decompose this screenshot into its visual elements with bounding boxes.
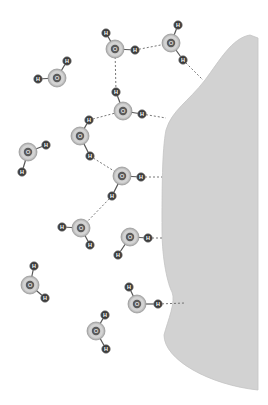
hydrogen-atom: H	[131, 46, 140, 55]
svg-text:H: H	[140, 111, 144, 117]
svg-text:H: H	[176, 22, 180, 28]
svg-text:O: O	[55, 75, 60, 81]
svg-text:H: H	[88, 242, 92, 248]
hydrogen-atom: H	[101, 311, 110, 320]
svg-text:O: O	[135, 301, 140, 307]
hydrogen-atom: H	[114, 251, 123, 260]
svg-text:H: H	[44, 142, 48, 148]
svg-text:H: H	[36, 76, 40, 82]
hydrogen-atom: H	[41, 294, 50, 303]
hydrogen-atom: H	[102, 345, 111, 354]
water-molecule: OHH	[102, 29, 140, 58]
hydrogen-atom: H	[108, 192, 117, 201]
svg-text:H: H	[110, 193, 114, 199]
svg-text:H: H	[114, 89, 118, 95]
oxygen-atom: O	[162, 34, 180, 52]
water-molecule: OHH	[108, 167, 146, 200]
svg-text:O: O	[78, 133, 83, 139]
svg-text:O: O	[94, 328, 99, 334]
oxygen-atom: O	[72, 219, 90, 237]
water-molecule: OHH	[58, 219, 95, 249]
hydrogen-atom: H	[125, 283, 134, 292]
svg-text:H: H	[60, 224, 64, 230]
surface-shape	[162, 35, 258, 390]
svg-text:O: O	[113, 46, 118, 52]
svg-text:H: H	[87, 117, 91, 123]
svg-text:H: H	[88, 153, 92, 159]
svg-text:H: H	[146, 235, 150, 241]
water-molecule: OHH	[34, 57, 72, 87]
svg-text:O: O	[128, 234, 133, 240]
oxygen-atom: O	[114, 102, 132, 120]
svg-text:H: H	[139, 174, 143, 180]
svg-text:H: H	[116, 252, 120, 258]
hydrogen-atom: H	[85, 116, 94, 125]
hydrogen-atom: H	[179, 56, 188, 65]
svg-text:O: O	[26, 149, 31, 155]
water-surface-diagram: OHHOHHOHHOHHOHHOHHOHHOHHOHHOHHOHHOHH	[0, 0, 268, 405]
svg-text:H: H	[103, 312, 107, 318]
hydrogen-atom: H	[34, 75, 43, 84]
svg-text:O: O	[79, 225, 84, 231]
svg-text:H: H	[32, 263, 36, 269]
svg-text:O: O	[169, 40, 174, 46]
oxygen-atom: O	[87, 322, 105, 340]
oxygen-atom: O	[121, 228, 139, 246]
hydrogen-atom: H	[30, 262, 39, 271]
oxygen-atom: O	[113, 167, 131, 185]
svg-text:H: H	[104, 346, 108, 352]
water-molecule: OHH	[114, 228, 153, 259]
svg-text:H: H	[43, 295, 47, 301]
oxygen-atom: O	[21, 276, 39, 294]
hydrogen-atom: H	[86, 241, 95, 250]
svg-text:H: H	[133, 47, 137, 53]
hydrogen-atom: H	[154, 300, 163, 309]
hydrogen-atom: H	[18, 168, 27, 177]
water-molecule: OHH	[71, 116, 94, 161]
svg-text:H: H	[181, 57, 185, 63]
oxygen-atom: O	[48, 69, 66, 87]
water-molecule: OHH	[21, 262, 49, 303]
hydrogen-atom: H	[112, 88, 121, 97]
hydrogen-atom: H	[86, 152, 95, 161]
oxygen-atom: O	[71, 127, 89, 145]
svg-text:H: H	[65, 58, 69, 64]
oxygen-atom: O	[128, 295, 146, 313]
water-molecule: OHH	[87, 311, 110, 354]
svg-text:H: H	[20, 169, 24, 175]
oxygen-atom: O	[19, 143, 37, 161]
water-molecule: OHH	[162, 21, 187, 65]
svg-text:H: H	[127, 284, 131, 290]
hydrogen-atom: H	[137, 173, 146, 182]
hydrogen-atom: H	[42, 141, 51, 150]
hydrogen-atom: H	[144, 234, 153, 243]
water-molecule: OHH	[125, 283, 163, 313]
water-molecule: OHH	[112, 88, 147, 120]
hydrogen-atom: H	[58, 223, 67, 232]
hydrogen-atom: H	[174, 21, 183, 30]
svg-text:O: O	[120, 173, 125, 179]
svg-text:O: O	[121, 108, 126, 114]
water-molecule: OHH	[18, 141, 51, 177]
hydrogen-atom: H	[102, 29, 111, 38]
svg-text:O: O	[28, 282, 33, 288]
hydrogen-atom: H	[138, 110, 147, 119]
oxygen-atom: O	[106, 40, 124, 58]
svg-text:H: H	[156, 301, 160, 307]
svg-text:H: H	[104, 30, 108, 36]
hydrogen-atom: H	[63, 57, 72, 66]
